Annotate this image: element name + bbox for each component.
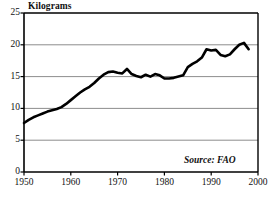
x-tick-label-1960: 1960 — [53, 177, 89, 187]
y-tick-label-5: 5 — [0, 134, 20, 144]
x-tick-label-2000: 2000 — [240, 177, 273, 187]
y-tick-label-10: 10 — [0, 102, 20, 112]
chart-plot-area — [0, 0, 273, 199]
y-tick-label-20: 20 — [0, 39, 20, 49]
source-note: Source: FAO — [184, 155, 236, 165]
x-tick-label-1990: 1990 — [193, 177, 229, 187]
x-tick-label-1970: 1970 — [100, 177, 136, 187]
y-tick-label-0: 0 — [0, 166, 20, 176]
x-tick-label-1980: 1980 — [146, 177, 182, 187]
y-tick-label-15: 15 — [0, 71, 20, 81]
y-tick-label-25: 25 — [0, 7, 20, 17]
data-line-series — [24, 43, 249, 123]
x-tick-label-1950: 1950 — [6, 177, 42, 187]
chart-container: Kilograms 0510152025 1950196019701980199… — [0, 0, 273, 199]
